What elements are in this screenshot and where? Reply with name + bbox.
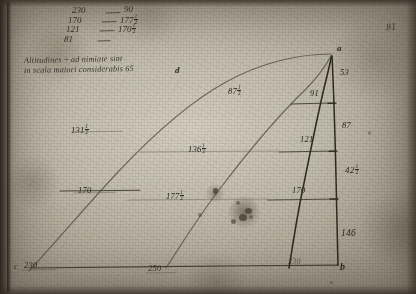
table-row: 81 [64,34,73,44]
label-value: 136 [188,144,201,154]
diagram-svg [0,0,416,294]
ink-smudge [204,184,226,202]
fraction-half: 12 [132,23,136,35]
label-mid-curve-upper: 8712 [228,85,241,96]
folio-mark: 81 [385,21,397,32]
label-mid-curve-lower: 17712 [166,190,184,201]
fraction-half: 12 [180,190,184,201]
curve-outer-left [29,54,331,271]
rule-line-3 [268,199,337,200]
page-edge-top [0,0,416,7]
label-right-curve-top: 91 [310,89,319,98]
axis-vertical-right [332,56,338,265]
label-right-curve-mid: 121 [300,135,313,144]
page-edge-right [406,0,416,294]
fraction-half: 12 [237,85,241,96]
manuscript-page: 230 90 170 17712 121 17012 81 Altitudine… [0,0,416,294]
diagram-ink-layer [0,0,416,294]
ink-blot [330,281,333,284]
fraction-half: 12 [85,124,89,135]
label-vertical-top: 53 [340,68,349,77]
label-left-curve-lower: 170 [78,186,91,195]
label-value: 177 [166,191,179,201]
curve-middle [166,56,331,268]
page-edge-bottom [0,285,416,294]
table-cell-left: 81 [64,34,73,44]
label-value: 131 [71,125,84,135]
rule-line-left-2 [60,190,140,191]
point-label-d: d [175,66,180,75]
label-mid-curve-mid: 13612 [188,143,206,154]
point-label-a: a [337,44,342,53]
rule-line-2 [279,151,336,152]
table-cell-left: 121 [66,24,80,34]
rule-line-mid-1 [140,151,279,152]
page-binding-shadow [7,2,11,292]
fraction-half: 12 [202,143,206,154]
ink-blot [198,213,202,217]
ink-smudge [226,196,262,228]
label-vertical-low: 4212 [345,164,359,176]
point-label-b: b [340,262,345,272]
table-row: 121 [66,24,80,34]
label-axis-bottom-right: 230 [288,258,301,266]
point-label-c: c [14,262,18,271]
label-left-curve-upper: 13112 [71,124,89,135]
table-row: 17012 [118,23,136,35]
label-value: 42 [345,165,354,175]
label-right-curve-low: 170 [292,186,305,195]
label-axis-bottom-left: 250 [148,264,161,273]
label-vertical-mid: 87 [342,121,351,130]
table-cell-right: 170 [118,24,132,34]
label-value: 87 [228,86,237,96]
ink-blot [368,131,371,135]
label-vertical-bottom: 146 [341,229,356,239]
fraction-half: 12 [355,164,359,176]
label-c-value: 230 [24,261,37,270]
